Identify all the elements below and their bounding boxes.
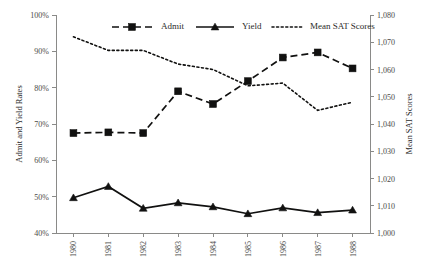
left-axis-tick-label: 80% <box>34 84 49 93</box>
data-point <box>175 88 182 95</box>
legend-label: Yield <box>242 21 262 31</box>
series-line <box>73 52 352 133</box>
right-axis-tick-label: 1,080 <box>377 11 395 20</box>
left-axis-tick-label: 50% <box>34 193 49 202</box>
x-axis-year-label: 1980 <box>69 241 78 257</box>
series-line <box>73 37 352 111</box>
x-axis-year-label: 1987 <box>314 241 323 257</box>
x-axis-year-label: 1983 <box>174 241 183 257</box>
data-point <box>349 65 356 72</box>
data-point <box>314 49 321 56</box>
right-axis-tick-label: 1,020 <box>377 175 395 184</box>
right-axis-tick-label: 1,070 <box>377 38 395 47</box>
data-point <box>244 78 251 85</box>
data-point <box>210 101 217 108</box>
chart-container: 40%50%60%70%80%90%100% 1,0001,0101,0201,… <box>0 0 433 272</box>
admit-yield-sat-line-chart: 40%50%60%70%80%90%100% 1,0001,0101,0201,… <box>0 0 433 272</box>
data-point <box>279 54 286 61</box>
right-axis-tick-label: 1,040 <box>377 120 395 129</box>
left-axis-tick-label: 100% <box>30 11 49 20</box>
right-axis-tick-label: 1,030 <box>377 147 395 156</box>
legend-item-admit[interactable]: Admit <box>112 21 185 31</box>
x-axis-year-label: 1981 <box>104 241 113 257</box>
right-axis-title: Mean SAT Scores <box>404 93 414 154</box>
right-axis-tick-label: 1,050 <box>377 93 395 102</box>
legend-label: Mean SAT Scores <box>310 21 375 31</box>
right-axis: 1,0001,0101,0201,0301,0401,0501,0601,070… <box>370 11 395 238</box>
x-axis-year-label: 1985 <box>244 241 253 257</box>
series-mean-sat-scores <box>73 37 352 111</box>
x-axis: 198019811982198319841985198619871988 <box>56 233 370 257</box>
right-axis-tick-label: 1,060 <box>377 66 395 75</box>
left-axis: 40%50%60%70%80%90%100% <box>30 11 56 238</box>
left-axis-tick-label: 90% <box>34 47 49 56</box>
x-axis-year-label: 1982 <box>139 241 148 257</box>
series-layer <box>70 37 357 217</box>
legend-marker-swatch <box>129 24 136 31</box>
legend-item-mean-sat-scores[interactable]: Mean SAT Scores <box>272 21 375 31</box>
data-point <box>70 130 77 137</box>
left-axis-title: Admit and Yield Rates <box>14 85 24 162</box>
data-point <box>105 129 112 136</box>
x-axis-year-label: 1984 <box>209 241 218 257</box>
series-yield <box>70 183 357 217</box>
legend-item-yield[interactable]: Yield <box>196 21 262 31</box>
left-axis-tick-label: 70% <box>34 120 49 129</box>
left-axis-tick-label: 60% <box>34 156 49 165</box>
x-axis-year-label: 1988 <box>349 241 358 257</box>
right-axis-tick-label: 1,010 <box>377 202 395 211</box>
legend-label: Admit <box>161 21 185 31</box>
left-axis-tick-label: 40% <box>34 229 49 238</box>
x-axis-year-label: 1986 <box>279 241 288 257</box>
data-point <box>140 130 147 137</box>
series-admit <box>70 49 356 136</box>
right-axis-tick-label: 1,000 <box>377 229 395 238</box>
chart-legend: AdmitYieldMean SAT Scores <box>112 21 375 31</box>
data-point <box>104 183 112 190</box>
